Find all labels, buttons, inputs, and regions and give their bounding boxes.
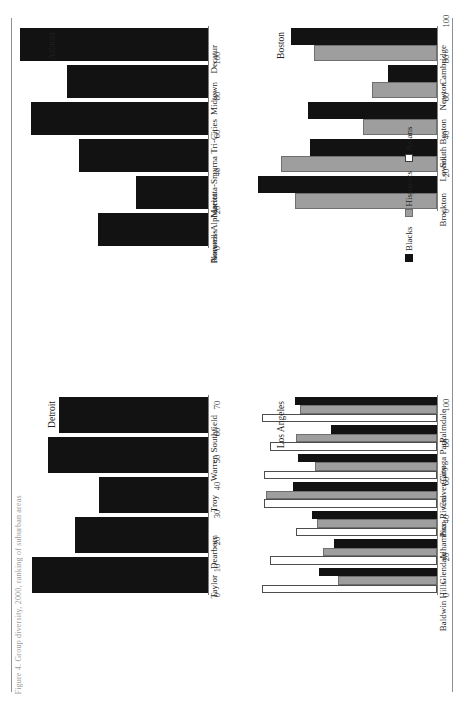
legend-label-hispanics: Hispanics — [404, 171, 414, 207]
bar-culver-city-asians — [264, 471, 437, 480]
bar-canoga-park-blacks — [331, 425, 437, 434]
bar-culver-city-hispanics — [315, 462, 437, 471]
legend-item-asians: Asians — [404, 127, 414, 163]
category-label: Baldwin Hills — [438, 581, 448, 631]
bar-glendale-blacks — [334, 539, 437, 548]
bar-baldwin-hills-blacks — [319, 568, 437, 577]
bar-pico-rivera-hispanics — [266, 491, 437, 500]
legend-label-blacks: Blacks — [404, 227, 414, 252]
bar-baldwin-hills-hispanics — [338, 576, 437, 585]
bar-palmdale-hispanics — [300, 405, 437, 414]
category-label: Glendale — [438, 552, 448, 584]
bar-glendale-hispanics — [323, 548, 437, 557]
bar-palmdale-blacks — [295, 397, 438, 406]
legend-swatch-asians-icon — [405, 154, 413, 162]
bar-alhambra-asians — [296, 528, 437, 537]
bar-palmdale-asians — [262, 414, 437, 423]
bar-pico-rivera-asians — [264, 499, 437, 508]
chart-panel-los-angeles: 020406080100PalmdaleCanoga ParkCulver Ci… — [0, 0, 465, 710]
legend-swatch-blacks-icon — [405, 254, 413, 262]
bar-baldwin-hills-asians — [262, 585, 437, 594]
legend-item-blacks: Blacks — [404, 227, 414, 263]
bar-alhambra-hispanics — [317, 519, 437, 528]
bar-glendale-asians — [270, 556, 437, 565]
bar-culver-city-blacks — [298, 454, 437, 463]
figure-legend: Blacks Hispanics Asians — [404, 127, 414, 263]
legend-swatch-hispanics-icon — [405, 210, 413, 218]
bar-canoga-park-asians — [270, 442, 437, 451]
bar-canoga-park-hispanics — [296, 434, 437, 443]
panel-title: Los Angeles — [276, 401, 286, 448]
legend-item-hispanics: Hispanics — [404, 171, 414, 218]
legend-label-asians: Asians — [404, 127, 414, 152]
bar-pico-rivera-blacks — [293, 482, 437, 491]
bar-alhambra-blacks — [312, 511, 437, 520]
